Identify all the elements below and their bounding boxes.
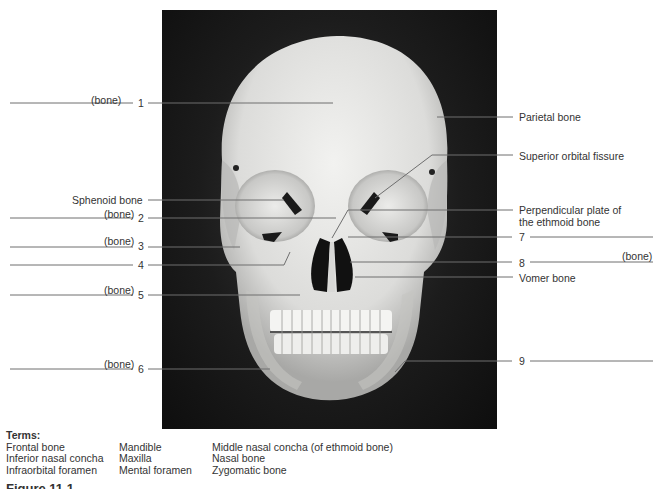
label-1-blank-suffix: (bone) [91,94,121,106]
label-1-number: 1 [138,97,144,109]
skull-illustration [162,10,497,429]
label-4-number: 4 [138,259,144,271]
answer-field-2[interactable] [10,207,104,219]
label-perpendicular-plate-line1: Perpendicular plate of [519,204,621,216]
skull-photograph [162,10,497,429]
label-8-blank-suffix: (bone) [622,250,652,262]
label-sphenoid-bone: Sphenoid bone [72,194,143,206]
answer-field-3[interactable] [10,236,104,248]
label-5-blank-suffix: (bone) [104,284,134,296]
label-3-blank-suffix: (bone) [104,235,134,247]
figure-caption-partial: Figure 11.1 [6,482,74,489]
answer-field-6[interactable] [10,358,104,370]
answer-field-1[interactable] [10,92,92,104]
label-2-number: 2 [138,212,144,224]
answer-field-4[interactable] [10,254,134,266]
answer-field-8[interactable] [531,251,623,263]
answer-field-9[interactable] [531,350,655,362]
answer-field-5[interactable] [10,284,104,296]
term: Infraorbital foramen [6,465,119,477]
terms-title: Terms: [6,430,412,442]
term: Nasal bone [212,453,412,465]
label-superior-orbital-fissure: Superior orbital fissure [519,150,624,162]
label-9-number: 9 [519,355,525,367]
answer-field-7[interactable] [531,226,655,238]
label-7-number: 7 [519,231,525,243]
label-vomer-bone: Vomer bone [519,272,576,284]
term: Mental foramen [119,465,212,477]
label-3-number: 3 [138,240,144,252]
label-8-number: 8 [519,257,525,269]
term: Maxilla [119,453,212,465]
term: Inferior nasal concha [6,453,119,465]
label-6-blank-suffix: (bone) [104,358,134,370]
terms-list: Terms: Frontal bone Mandible Middle nasa… [6,430,412,476]
label-parietal-bone: Parietal bone [519,111,581,123]
term: Zygomatic bone [212,465,412,477]
label-5-number: 5 [138,289,144,301]
label-6-number: 6 [138,363,144,375]
label-2-blank-suffix: (bone) [104,208,134,220]
